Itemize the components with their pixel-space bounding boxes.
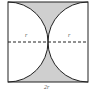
label-side: 2r [44,84,49,90]
square-diagram [0,0,94,90]
label-radius-left: r [25,32,27,38]
label-radius-right: r [68,32,70,38]
